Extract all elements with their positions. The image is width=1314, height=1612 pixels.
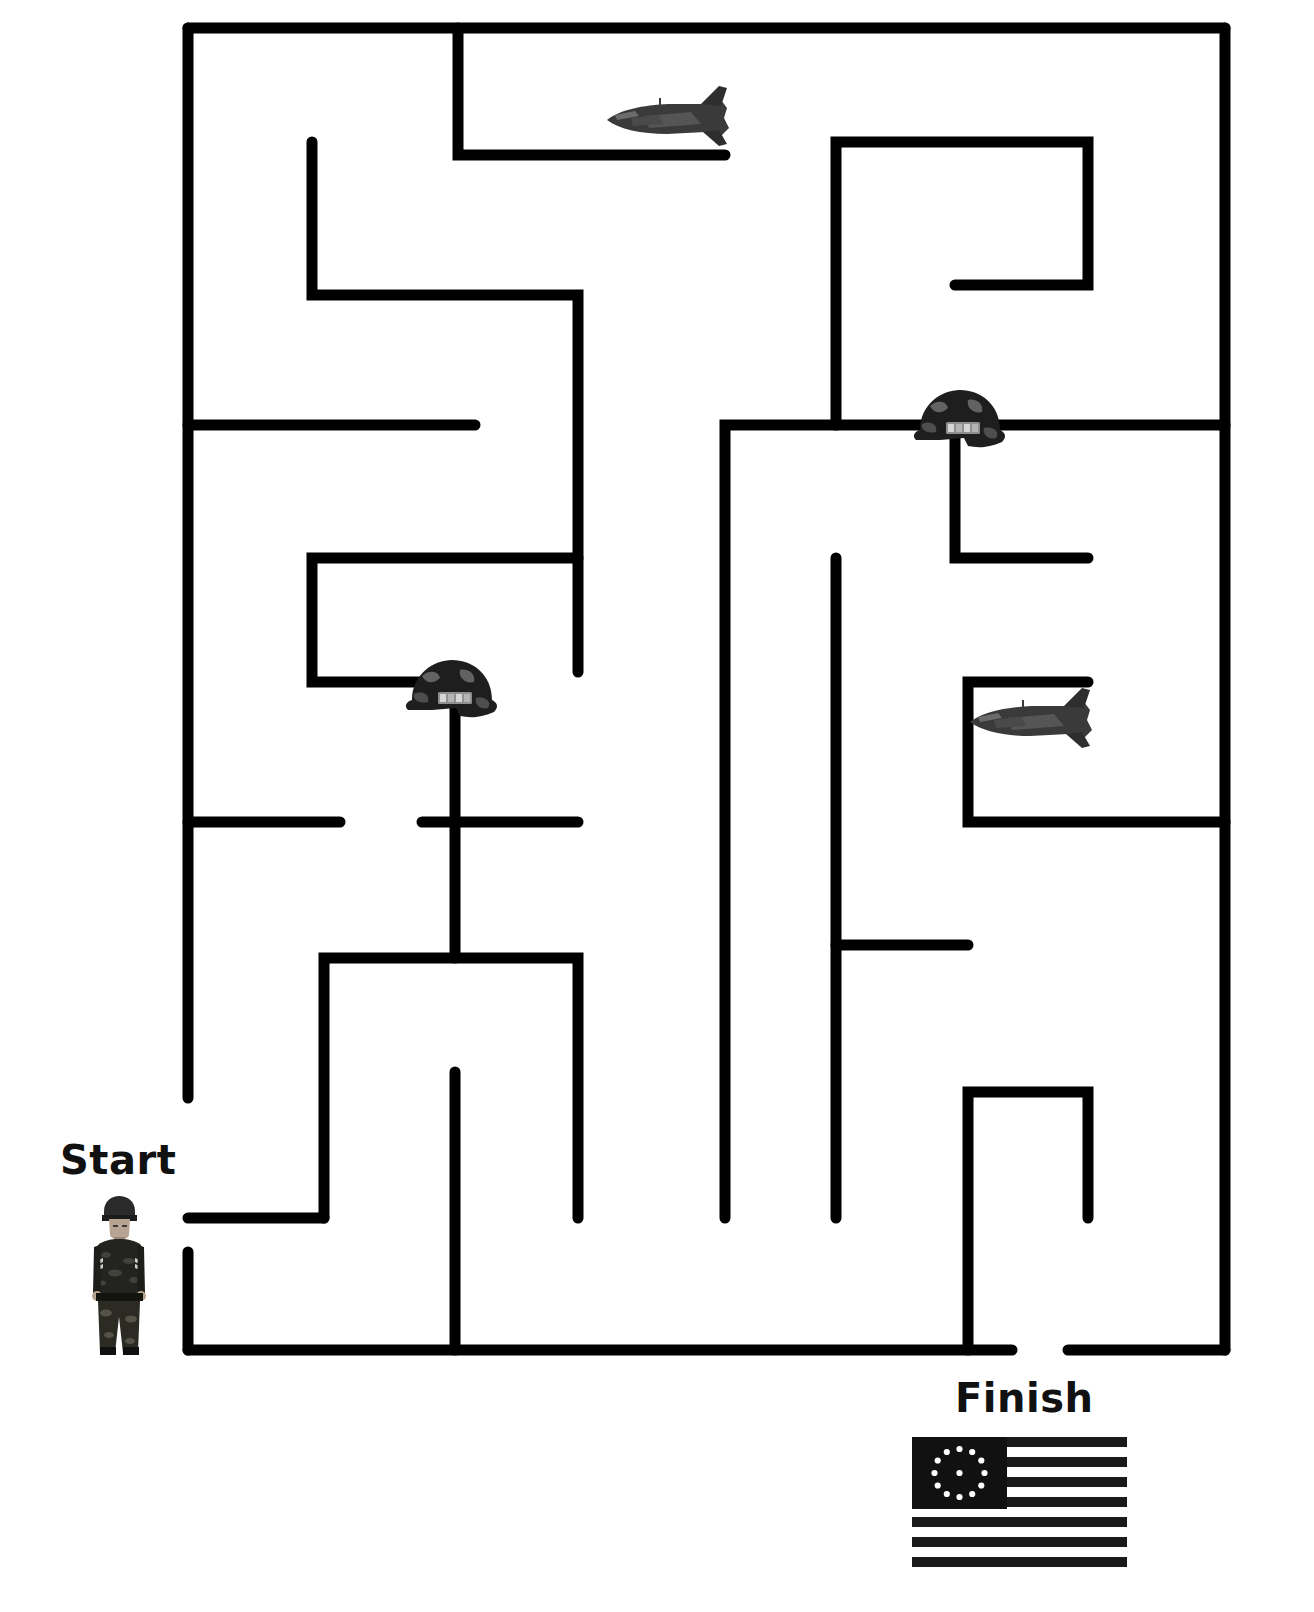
maze-inner-wall [968, 682, 1225, 822]
maze-page: Start [0, 0, 1314, 1612]
maze-inner-wall [836, 142, 1088, 425]
maze-inner-wall [458, 28, 725, 155]
soldier-figure-icon [82, 1195, 156, 1355]
fighter-jet-icon [970, 688, 1092, 748]
maze-inner-wall [312, 558, 578, 958]
maze-walls [188, 28, 1225, 1350]
maze-inner-wall [312, 142, 578, 672]
maze-diagram [0, 0, 1314, 1612]
betsy-ross-flag-icon [912, 1437, 1127, 1567]
start-label: Start [60, 1137, 176, 1183]
maze-inner-wall [968, 1092, 1088, 1350]
fighter-jet-icon [607, 86, 729, 146]
finish-label: Finish [955, 1375, 1094, 1421]
